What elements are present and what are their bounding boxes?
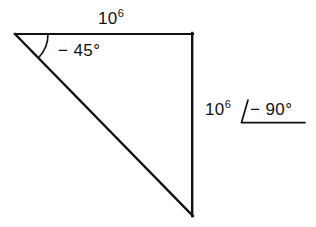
right-side-magnitude-exponent: 6	[225, 98, 231, 110]
angle-45-label: − 45°	[58, 42, 100, 59]
right-side-magnitude-label: 106	[205, 101, 231, 118]
right-side-magnitude-base: 10	[205, 100, 225, 119]
phasor-triangle-figure: 106 − 45° 106 − 90°	[0, 0, 316, 227]
right-side-angle-label: − 90°	[250, 101, 292, 118]
angle-arc-marker	[39, 34, 48, 57]
top-side-magnitude-base: 10	[98, 9, 118, 28]
top-side-magnitude-exponent: 6	[118, 7, 124, 19]
top-side-magnitude-label: 106	[98, 10, 124, 27]
triangle-hypotenuse	[15, 34, 193, 216]
